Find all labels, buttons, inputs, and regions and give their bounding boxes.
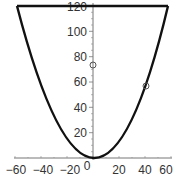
- x-tick-label-60: 60: [159, 163, 173, 177]
- x-tick-label-0: 0: [84, 159, 91, 173]
- x-tick-label-neg20: −20: [60, 163, 81, 177]
- y-tick-label-20: 20: [74, 126, 88, 140]
- x-tick-label-neg60: −60: [6, 163, 27, 177]
- x-tick-label-20: 20: [112, 163, 126, 177]
- y-tick-label-40: 40: [74, 101, 88, 115]
- x-tick-label-neg40: −40: [33, 163, 54, 177]
- y-tick-label-100: 100: [67, 25, 87, 39]
- x-tick-label-40: 40: [138, 163, 152, 177]
- parabola-chart: 20 40 60 80 100 120 −60 −40 −20 0 20 40 …: [0, 0, 177, 183]
- y-tick-label-60: 60: [74, 75, 88, 89]
- y-tick-label-80: 80: [74, 50, 88, 64]
